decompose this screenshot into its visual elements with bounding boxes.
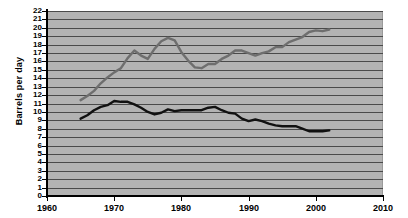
x-tick [47,197,48,201]
y-tick [42,129,47,130]
y-tick-label: 13 [18,83,42,91]
y-tick [42,104,47,105]
x-tick-label: 1960 [27,203,67,213]
y-tick-label: 20 [18,24,42,32]
y-tick [42,45,47,46]
chart-figure: Barrels per day 012345678910111213141516… [0,0,408,218]
x-tick-label: 2010 [363,203,403,213]
y-tick-label: 14 [18,74,42,82]
y-tick [42,188,47,189]
y-tick-label: 9 [18,116,42,124]
x-tick [181,197,182,201]
y-tick [42,36,47,37]
y-tick-label: 2 [18,175,42,183]
y-tick-label: 4 [18,158,42,166]
x-tick [114,197,115,201]
y-tick [42,120,47,121]
y-tick [42,137,47,138]
y-tick-label: 10 [18,108,42,116]
y-tick-label: 8 [18,125,42,133]
y-tick-label: 15 [18,66,42,74]
y-tick [42,11,47,12]
series-line-production [81,101,330,131]
y-tick-label: 6 [18,142,42,150]
y-tick [42,70,47,71]
x-tick-label: 1970 [94,203,134,213]
y-tick-label: 0 [18,192,42,200]
y-tick-label: 5 [18,150,42,158]
series-lines [47,11,383,196]
y-tick [42,28,47,29]
y-tick-label: 7 [18,133,42,141]
y-tick-label: 17 [18,49,42,57]
y-tick [42,171,47,172]
series-line-consumption [81,30,330,101]
x-tick-label: 1980 [161,203,201,213]
x-axis-line [46,195,384,197]
y-tick [42,162,47,163]
y-tick-label: 3 [18,167,42,175]
x-tick [316,197,317,201]
x-tick [249,197,250,201]
y-tick [42,112,47,113]
x-tick-label: 2000 [296,203,336,213]
y-tick [42,53,47,54]
y-tick-label: 22 [18,7,42,15]
y-tick [42,87,47,88]
plot-area [47,11,383,196]
y-tick-label: 16 [18,57,42,65]
y-tick [42,61,47,62]
y-tick [42,19,47,20]
y-tick-label: 12 [18,91,42,99]
y-tick [42,154,47,155]
y-tick-label: 21 [18,15,42,23]
y-tick [42,179,47,180]
y-tick-label: 19 [18,32,42,40]
y-tick-label: 18 [18,41,42,49]
x-tick-label: 1990 [229,203,269,213]
y-tick [42,146,47,147]
y-tick-label: 11 [18,100,42,108]
y-tick [42,78,47,79]
y-tick-label: 1 [18,184,42,192]
y-tick [42,95,47,96]
x-tick [383,197,384,201]
